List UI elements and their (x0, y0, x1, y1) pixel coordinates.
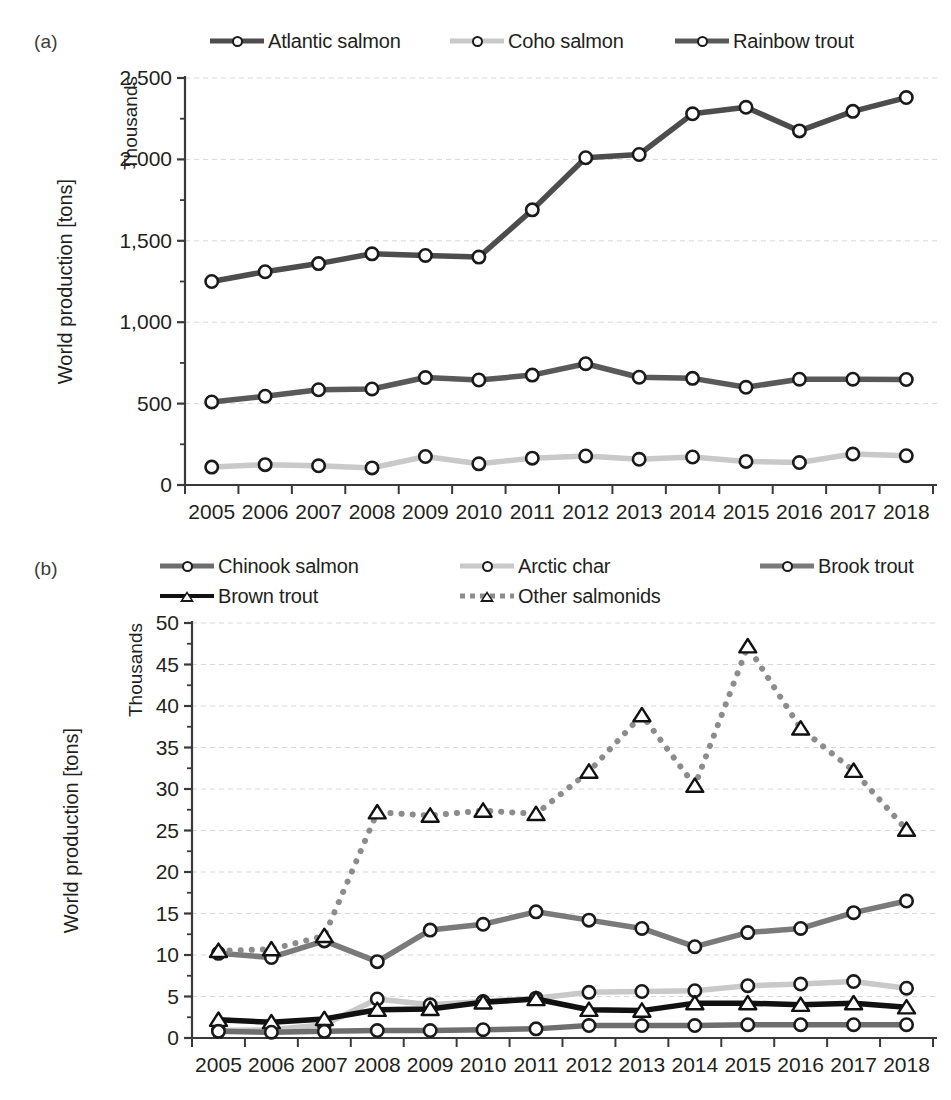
legend-item-rainbow-trout[interactable]: Rainbow trout (675, 26, 895, 56)
x-tick-label: 2011 (513, 1053, 558, 1076)
y-tick-label: 35 (156, 736, 179, 759)
data-point-circle-marker (740, 381, 752, 393)
data-point-circle-marker (794, 1019, 806, 1031)
data-point-circle-marker (473, 374, 485, 386)
data-point-circle-marker (530, 906, 542, 918)
data-point-circle-marker (793, 456, 805, 468)
panel-b-label: (b) (34, 558, 58, 580)
data-point-circle-marker (686, 108, 698, 120)
data-point-circle-marker (636, 922, 648, 934)
y-tick-label: 1,000 (119, 310, 172, 333)
data-point-circle-marker (900, 91, 912, 103)
data-point-circle-marker (312, 460, 324, 472)
data-point-circle-marker (580, 152, 592, 164)
data-point-circle-marker (366, 383, 378, 395)
y-tick-label: 0 (167, 1026, 179, 1049)
legend-key-circle-icon (210, 34, 264, 48)
data-point-circle-marker (366, 462, 378, 474)
y-tick-label: 500 (137, 392, 172, 415)
legend-key-triangle-icon (460, 589, 514, 603)
series-other-salmonids (210, 639, 915, 957)
data-point-circle-marker (371, 1024, 383, 1036)
data-point-circle-marker (366, 248, 378, 260)
y-tick-label: 25 (156, 819, 179, 842)
legend-key-circle-icon (760, 559, 814, 573)
data-point-triangle-marker (633, 708, 650, 721)
data-point-circle-marker (312, 384, 324, 396)
series-brook-trout (212, 895, 912, 968)
data-point-circle-marker (794, 922, 806, 934)
data-point-circle-marker (636, 985, 648, 997)
data-point-circle-marker (259, 390, 271, 402)
data-point-circle-marker (583, 986, 595, 998)
data-point-circle-marker (794, 978, 806, 990)
panel-b: (b) Chinook salmonArctic charBrook trout… (0, 545, 951, 1100)
x-tick-label: 2005 (188, 500, 235, 523)
data-point-triangle-marker (369, 805, 386, 818)
legend-key-triangle-icon (160, 589, 214, 603)
data-point-circle-marker (583, 1019, 595, 1031)
y-tick-label: 30 (156, 777, 179, 800)
legend-key-circle-icon (450, 34, 504, 48)
data-point-circle-marker (686, 451, 698, 463)
x-tick-label: 2009 (407, 1053, 454, 1076)
x-tick-label: 2008 (354, 1053, 401, 1076)
data-point-circle-marker (265, 1026, 277, 1038)
gridlines (185, 78, 937, 404)
data-point-circle-marker (847, 105, 859, 117)
x-tick-label: 2012 (566, 1053, 613, 1076)
data-point-circle-marker (206, 396, 218, 408)
data-point-circle-marker (900, 895, 912, 907)
data-point-circle-marker (633, 148, 645, 160)
data-point-circle-marker (526, 452, 538, 464)
chart-svg-panel-b: 0510152025303540455020052006200720082009… (0, 605, 951, 1100)
x-tick-label: 2008 (349, 500, 396, 523)
data-point-circle-marker (473, 251, 485, 263)
legend-item-coho-salmon[interactable]: Coho salmon (450, 26, 675, 56)
data-point-circle-marker (419, 450, 431, 462)
x-tick-label: 2015 (723, 500, 770, 523)
data-point-triangle-marker (792, 721, 809, 734)
legend-item-arctic-char[interactable]: Arctic char (460, 551, 760, 581)
data-point-circle-marker (900, 373, 912, 385)
legend-key-circle-icon (460, 559, 514, 573)
x-tick-label: 2011 (510, 500, 555, 523)
data-point-circle-marker (793, 373, 805, 385)
y-tick-label: 20 (156, 860, 179, 883)
legend-item-atlantic-salmon[interactable]: Atlantic salmon (210, 26, 450, 56)
data-point-circle-marker (847, 906, 859, 918)
data-point-circle-marker (424, 924, 436, 936)
x-tick-label: 2015 (724, 1053, 771, 1076)
chart-svg-panel-a: 05001,0001,5002,0002,5002005200620072008… (0, 60, 951, 545)
data-point-circle-marker (742, 926, 754, 938)
legend-label: Arctic char (518, 555, 610, 578)
y-tick-label: 50 (156, 611, 179, 634)
x-tick-label: 2007 (301, 1053, 348, 1076)
data-point-circle-marker (900, 1019, 912, 1031)
data-point-circle-marker (212, 1025, 224, 1037)
data-point-circle-marker (526, 204, 538, 216)
legend-item-brook-trout[interactable]: Brook trout (760, 551, 940, 581)
data-point-circle-marker (900, 982, 912, 994)
x-tick-label: 2006 (248, 1053, 295, 1076)
panel-a: (a) Atlantic salmonCoho salmonRainbow tr… (0, 0, 951, 545)
x-tick-label: 2010 (460, 1053, 507, 1076)
legend-label: Brook trout (818, 555, 914, 578)
legend-key-circle-icon (160, 559, 214, 573)
data-point-circle-marker (318, 1025, 330, 1037)
data-point-circle-marker (259, 266, 271, 278)
x-axis-ticks: 2005200620072008200920102011201220132014… (192, 1038, 933, 1076)
data-point-circle-marker (633, 371, 645, 383)
data-point-triangle-marker (686, 778, 703, 791)
data-point-circle-marker (633, 453, 645, 465)
y-tick-label: 45 (156, 653, 179, 676)
data-point-circle-marker (742, 1019, 754, 1031)
x-tick-label: 2006 (242, 500, 289, 523)
data-point-circle-marker (419, 371, 431, 383)
y-tick-label: 1,500 (119, 229, 172, 252)
data-point-circle-marker (689, 1019, 701, 1031)
x-tick-label: 2013 (619, 1053, 666, 1076)
legend-item-chinook-salmon[interactable]: Chinook salmon (160, 551, 460, 581)
figure-root: (a) Atlantic salmonCoho salmonRainbow tr… (0, 0, 951, 1100)
data-point-triangle-marker (739, 639, 756, 652)
